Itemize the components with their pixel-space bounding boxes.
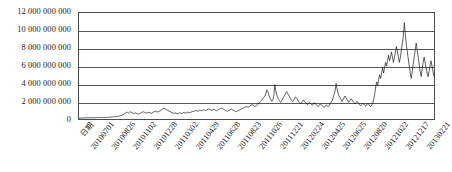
y-tick-label: 4 000 000 000 xyxy=(22,79,71,88)
line-series-path xyxy=(79,23,434,118)
y-tick-label: 12 000 000 000 xyxy=(17,7,71,16)
line-series-layer xyxy=(79,13,434,119)
y-tick-label: 6 000 000 000 xyxy=(22,61,71,70)
x-tick-label: 日期 xyxy=(78,120,95,138)
y-tick-label: 8 000 000 000 xyxy=(22,43,71,52)
plot-area xyxy=(78,12,435,120)
y-tick-label: 10 000 000 000 xyxy=(17,25,71,34)
x-axis-labels: 日期20100701201008262010110220101228201103… xyxy=(0,120,449,172)
y-tick-label: 2 000 000 000 xyxy=(22,97,71,106)
